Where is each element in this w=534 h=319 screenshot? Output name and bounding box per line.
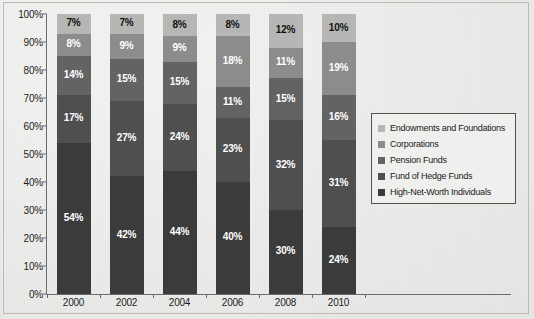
chart-legend: Endowments and FoundationsCorporationsPe… [371, 113, 516, 204]
x-axis-tick-mark [312, 294, 313, 298]
bar-segment-value: 15% [276, 94, 295, 104]
x-axis-tick-mark [206, 294, 207, 298]
y-axis-tick-label: 60% [24, 121, 43, 132]
legend-item-label: Fund of Hedge Funds [390, 171, 472, 181]
x-axis-tick-mark [365, 294, 366, 298]
bar-segment-value: 27% [117, 133, 136, 143]
bar-segment-value: 8% [225, 20, 239, 30]
bar-segment: 10% [322, 14, 356, 42]
bar-segment: 32% [269, 120, 303, 210]
bar-segment: 30% [269, 210, 303, 294]
bar-segment: 9% [110, 34, 144, 59]
legend-item-label: Corporations [390, 139, 439, 149]
y-axis-tick-label: 70% [24, 93, 43, 104]
bar-segment: 15% [269, 78, 303, 120]
bar-segment: 42% [110, 176, 144, 294]
bar-segment: 16% [322, 95, 356, 140]
y-axis-tick-label: 10% [24, 261, 43, 272]
stacked-bar: 7%8%14%17%54% [57, 14, 91, 294]
legend-item[interactable]: Pension Funds [378, 152, 510, 168]
bar-segment: 40% [216, 182, 250, 294]
bar-segment-value: 11% [223, 97, 242, 107]
y-axis-tick-mark [43, 182, 47, 183]
bar-segment-value: 19% [329, 63, 348, 73]
legend-item-label: Pension Funds [390, 155, 447, 165]
y-axis-tick-label: 50% [24, 149, 43, 160]
bar-segment-value: 15% [170, 77, 189, 87]
x-axis-tick-label: 2008 [275, 297, 296, 308]
bar-segment: 44% [163, 171, 197, 294]
legend-swatch-icon [378, 189, 385, 196]
legend-swatch-icon [378, 173, 385, 180]
y-axis-tick-label: 40% [24, 177, 43, 188]
y-axis-tick-mark [43, 70, 47, 71]
bar-segment-value: 8% [172, 20, 186, 30]
bar-segment: 27% [110, 101, 144, 177]
y-axis-tick-label: 20% [24, 233, 43, 244]
bar-segment-value: 11% [276, 57, 295, 67]
y-axis-tick-mark [43, 238, 47, 239]
bar-segment: 14% [57, 56, 91, 95]
bar-segment: 7% [110, 14, 144, 34]
bar-segment-value: 14% [64, 70, 83, 80]
legend-item[interactable]: Endowments and Foundations [378, 120, 510, 136]
legend-swatch-icon [378, 125, 385, 132]
stacked-bar: 10%19%16%31%24% [322, 14, 356, 294]
y-axis-tick-mark [43, 126, 47, 127]
y-axis-tick-mark [43, 42, 47, 43]
bar-segment: 24% [322, 227, 356, 294]
bar-segment-value: 44% [170, 227, 189, 237]
x-axis-tick-label: 2004 [169, 297, 190, 308]
x-axis-tick-mark [259, 294, 260, 298]
bar-segment-value: 15% [117, 74, 136, 84]
bar-segment-value: 32% [276, 160, 295, 170]
bar-segment-value: 9% [119, 41, 133, 51]
x-axis-line [46, 294, 511, 295]
legend-item[interactable]: Fund of Hedge Funds [378, 168, 510, 184]
legend-item-label: Endowments and Foundations [390, 123, 505, 133]
bar-segment-value: 30% [276, 246, 295, 256]
stacked-bar: 7%9%15%27%42% [110, 14, 144, 294]
bar-segment: 31% [322, 140, 356, 227]
bar-segment-value: 8% [66, 39, 80, 49]
bar-segment-value: 42% [117, 230, 136, 240]
y-axis-tick-label: 80% [24, 65, 43, 76]
bar-segment-value: 40% [223, 232, 242, 242]
plot-area: 0%10%20%30%40%50%60%70%80%90%100% 7%8%14… [47, 14, 365, 294]
bar-segment: 9% [163, 36, 197, 61]
y-axis-tick-mark [43, 98, 47, 99]
y-axis-tick-mark [43, 154, 47, 155]
bar-segment-value: 10% [329, 23, 348, 33]
y-axis-tick-label: 30% [24, 205, 43, 216]
bar-segment: 15% [163, 62, 197, 104]
chart-page: 0%10%20%30%40%50%60%70%80%90%100% 7%8%14… [0, 0, 534, 319]
bar-segment: 18% [216, 36, 250, 86]
legend-item[interactable]: High-Net-Worth Individuals [378, 184, 510, 200]
x-axis-tick-mark [100, 294, 101, 298]
bar-segment: 8% [216, 14, 250, 36]
x-axis-tick-label: 2006 [222, 297, 243, 308]
y-axis-tick-mark [43, 266, 47, 267]
bar-segment-value: 7% [119, 18, 133, 28]
bar-segment-value: 16% [329, 112, 348, 122]
bar-segment: 23% [216, 118, 250, 182]
bar-segment-value: 9% [172, 43, 186, 53]
bar-segment: 24% [163, 104, 197, 171]
bar-segment: 11% [216, 87, 250, 118]
x-axis-tick-label: 2002 [116, 297, 137, 308]
bar-segment-value: 12% [276, 25, 295, 35]
x-axis-tick-mark [47, 294, 48, 298]
bar-segment-value: 18% [223, 56, 242, 66]
legend-swatch-icon [378, 157, 385, 164]
legend-swatch-icon [378, 141, 385, 148]
bar-segment: 54% [57, 143, 91, 294]
legend-item[interactable]: Corporations [378, 136, 510, 152]
x-axis-tick-label: 2010 [328, 297, 349, 308]
stacked-bar: 8%9%15%24%44% [163, 14, 197, 294]
stacked-bar: 8%18%11%23%40% [216, 14, 250, 294]
bar-segment-value: 23% [223, 144, 242, 154]
bar-segment-value: 17% [64, 113, 83, 123]
bar-segment: 11% [269, 48, 303, 79]
bar-segment-value: 24% [170, 132, 189, 142]
bar-segment-value: 24% [329, 255, 348, 265]
